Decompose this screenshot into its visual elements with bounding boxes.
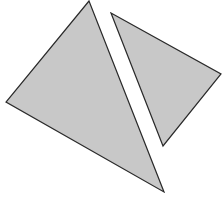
triangles-diagram [0, 0, 222, 198]
